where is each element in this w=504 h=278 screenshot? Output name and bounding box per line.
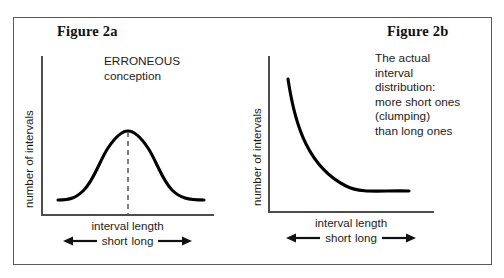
arrow-left-icon <box>62 235 98 247</box>
figure-canvas: Figure 2a number of intervals ERRONEOUS … <box>0 0 504 278</box>
arrow-left-icon <box>285 232 321 244</box>
y-axis-line-a <box>41 56 43 215</box>
figure-panel-b: Figure 2b number of intervals The actual… <box>242 18 493 266</box>
figure-panel-a: Figure 2a number of intervals ERRONEOUS … <box>14 18 242 266</box>
annotation-text-b: The actual interval distribution: more s… <box>375 51 460 139</box>
x-range-low-label-a: short <box>102 234 128 247</box>
figure-outer-frame: Figure 2a number of intervals ERRONEOUS … <box>13 17 492 265</box>
x-range-high-label-a: long <box>131 234 153 247</box>
figure-title-a: Figure 2a <box>57 23 118 40</box>
y-axis-line-b <box>268 56 270 212</box>
annotation-text-a: ERRONEOUS conception <box>104 54 180 83</box>
arrow-right-icon <box>381 232 417 244</box>
y-axis-label-a: number of intervals <box>23 110 35 208</box>
x-axis-caption-a: interval length short long <box>41 218 214 247</box>
bell-curve-path <box>58 131 204 200</box>
arrow-right-icon <box>157 235 193 247</box>
x-range-high-label-b: long <box>355 231 377 244</box>
figure-title-b: Figure 2b <box>387 23 449 40</box>
x-axis-range-b: short long <box>268 231 434 244</box>
x-axis-line-b <box>268 211 434 213</box>
x-axis-range-a: short long <box>41 234 214 247</box>
x-axis-label-b: interval length <box>268 215 434 230</box>
x-axis-label-a: interval length <box>41 218 214 233</box>
x-range-low-label-b: short <box>325 231 351 244</box>
x-axis-line-a <box>41 214 214 216</box>
x-axis-caption-b: interval length short long <box>268 215 434 244</box>
y-axis-label-b: number of intervals <box>251 108 263 206</box>
